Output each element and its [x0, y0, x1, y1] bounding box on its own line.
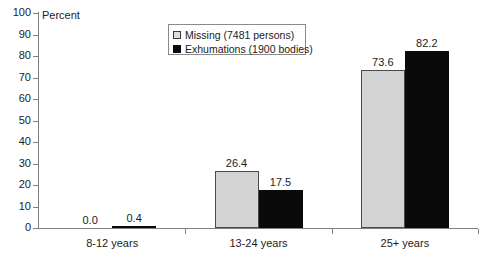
x-category-label: 8-12 years: [52, 237, 172, 250]
bar-value-label: 17.5: [253, 176, 309, 188]
y-tick-label: 40: [1, 136, 31, 147]
y-tick-label: 90: [1, 29, 31, 40]
bar-value-label: 26.4: [209, 157, 265, 169]
y-tick-label: 20: [1, 179, 31, 190]
y-tick-label: 50: [1, 115, 31, 126]
bar-value-label: 0.4: [106, 212, 162, 224]
y-tick-mark: [33, 78, 38, 79]
y-tick-label: 80: [1, 50, 31, 61]
y-tick-mark: [33, 164, 38, 165]
legend-swatch-icon-exhumations: [173, 45, 181, 53]
y-tick-mark: [33, 121, 38, 122]
x-axis-line: [38, 228, 478, 229]
y-tick-mark: [33, 185, 38, 186]
legend-item-missing: Missing (7481 persons): [173, 28, 301, 41]
chart-legend: Missing (7481 persons) Exhumations (1900…: [168, 24, 306, 55]
y-tick-label: 10: [1, 201, 31, 212]
y-tick-mark: [33, 142, 38, 143]
y-tick-mark: [33, 99, 38, 100]
y-tick-mark: [33, 35, 38, 36]
y-tick-label: 30: [1, 158, 31, 169]
y-tick-label: 0: [1, 222, 31, 233]
x-category-label: 13-24 years: [199, 237, 319, 250]
bar: [361, 70, 405, 228]
bar: [112, 226, 156, 228]
x-tick-mark: [478, 229, 479, 234]
bar-chart: Percent 1009080706050403020100 0.00.426.…: [0, 0, 485, 260]
bar-value-label: 73.6: [355, 56, 411, 68]
bar: [405, 51, 449, 228]
legend-item-exhumations: Exhumations (1900 bodies): [173, 42, 301, 55]
y-tick-mark: [33, 13, 38, 14]
x-tick-mark: [185, 229, 186, 234]
y-tick-mark: [33, 56, 38, 57]
legend-swatch-icon-missing: [173, 31, 181, 39]
x-category-label: 25+ years: [345, 237, 465, 250]
legend-label-exhumations: Exhumations (1900 bodies): [185, 43, 313, 55]
y-tick-mark: [33, 207, 38, 208]
x-tick-mark: [332, 229, 333, 234]
legend-label-missing: Missing (7481 persons): [185, 29, 294, 41]
y-tick-label: 100: [1, 7, 31, 18]
bar: [259, 190, 303, 228]
bar-value-label: 82.2: [399, 37, 455, 49]
y-tick-label: 70: [1, 72, 31, 83]
y-tick-label: 60: [1, 93, 31, 104]
